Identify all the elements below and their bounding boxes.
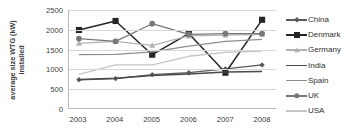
- y-tick-label: 0: [59, 105, 63, 114]
- legend-line: [286, 65, 307, 67]
- x-tick-label: 2006: [180, 115, 197, 124]
- series-line: [79, 24, 262, 42]
- circle-marker: [149, 21, 155, 27]
- legend-item-india[interactable]: India: [286, 58, 360, 73]
- triangle-marker: [286, 44, 307, 56]
- legend-symbol: [294, 32, 300, 38]
- gridline: [69, 30, 276, 31]
- y-axis-title-line1: average size WTG (kW): [8, 20, 17, 99]
- y-tick-label: 500: [50, 85, 63, 94]
- legend-line: [286, 110, 307, 112]
- x-axis-tick-labels: 200320042005200620072008: [68, 113, 276, 129]
- series-lines: [69, 10, 276, 108]
- y-tick-label: 2500: [46, 6, 63, 15]
- legend-item-germany[interactable]: Germany: [286, 42, 360, 57]
- circle-marker: [113, 38, 119, 44]
- y-tick-label: 1500: [46, 45, 63, 54]
- circle-marker: [223, 31, 229, 37]
- plot-area: [68, 10, 276, 109]
- legend-label: China: [307, 15, 329, 24]
- x-tick-label: 2003: [70, 115, 87, 124]
- legend-symbol: [294, 47, 300, 52]
- y-axis-tick-labels: 05001000150020002500: [30, 0, 66, 120]
- legend-item-usa[interactable]: USA: [286, 103, 360, 118]
- series-india: [79, 72, 262, 80]
- legend-item-uk[interactable]: UK: [286, 88, 360, 103]
- legend-label: UK: [307, 91, 319, 100]
- legend-symbol: [294, 93, 300, 99]
- y-tick-label: 2000: [46, 25, 63, 34]
- legend-symbol: [293, 16, 299, 22]
- legend-item-spain[interactable]: Spain: [286, 73, 360, 88]
- circle-marker: [286, 90, 307, 102]
- plot-inner: [69, 10, 276, 108]
- x-tick-label: 2004: [106, 115, 123, 124]
- series-line: [79, 72, 262, 80]
- y-tick-label: 1000: [46, 65, 63, 74]
- chart-figure: average size WTG (kW) installed 05001000…: [0, 0, 360, 138]
- circle-marker: [259, 31, 265, 37]
- legend-label: Germany: [307, 45, 341, 54]
- line-marker: [286, 59, 307, 71]
- gridline: [69, 69, 276, 70]
- y-axis-title-line2: installed: [17, 45, 26, 74]
- legend-label: Denmark: [307, 30, 340, 39]
- square-marker: [259, 17, 265, 23]
- line-marker: [286, 74, 307, 86]
- diamond-marker: [259, 62, 264, 67]
- legend-label: India: [307, 61, 325, 70]
- x-tick-label: 2007: [217, 115, 234, 124]
- gridline: [69, 10, 276, 11]
- legend-item-denmark[interactable]: Denmark: [286, 27, 360, 42]
- square-marker: [112, 18, 118, 24]
- chart-legend: ChinaDenmarkGermanyIndiaSpainUKUSA: [286, 12, 360, 118]
- filled-square-marker: [286, 29, 307, 41]
- x-tick-label: 2008: [254, 115, 271, 124]
- circle-marker: [186, 31, 192, 37]
- series-line: [79, 20, 262, 73]
- legend-line: [286, 80, 307, 82]
- legend-item-china[interactable]: China: [286, 12, 360, 27]
- legend-label: USA: [307, 106, 324, 115]
- gridline: [69, 89, 276, 90]
- gridline: [69, 50, 276, 51]
- diamond-marker: [286, 14, 307, 26]
- circle-marker: [76, 36, 82, 42]
- y-axis-title: average size WTG (kW) installed: [0, 0, 34, 120]
- line-marker: [286, 105, 307, 117]
- series-denmark: [76, 17, 265, 76]
- x-tick-label: 2005: [143, 115, 160, 124]
- legend-label: Spain: [307, 76, 328, 85]
